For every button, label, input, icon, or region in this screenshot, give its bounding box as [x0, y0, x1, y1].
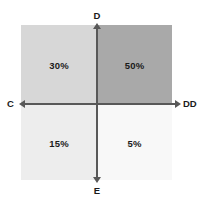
- axis-label-left: C: [7, 99, 14, 109]
- arrow-left-icon: [19, 100, 25, 108]
- vertical-axis-line: [96, 29, 98, 177]
- axis-label-bottom: E: [0, 186, 194, 196]
- quadrant-top-left: 30%: [21, 25, 97, 104]
- quadrant-top-left-value: 30%: [21, 61, 97, 71]
- arrow-right-icon: [175, 100, 181, 108]
- arrow-down-icon: [93, 177, 101, 183]
- quadrant-bottom-left: 15%: [21, 104, 97, 180]
- quadrant-chart: 30% 50% 15% 5% D E C DD: [0, 0, 202, 207]
- quadrant-bottom-right-value: 5%: [97, 139, 172, 149]
- arrow-up-icon: [93, 23, 101, 29]
- horizontal-axis-line: [24, 103, 176, 105]
- axis-label-right: DD: [183, 99, 197, 109]
- quadrant-top-right-value: 50%: [97, 61, 172, 71]
- quadrant-top-right: 50%: [97, 25, 172, 104]
- quadrant-bottom-left-value: 15%: [21, 139, 97, 149]
- quadrant-bottom-right: 5%: [97, 104, 172, 180]
- axis-label-top: D: [0, 11, 194, 21]
